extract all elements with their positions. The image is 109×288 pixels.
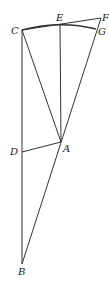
geometry-figure: C E F G A D B <box>0 0 109 288</box>
label-F: F <box>101 12 109 23</box>
label-D: D <box>9 146 18 157</box>
label-B: B <box>17 266 25 277</box>
segment-FB <box>22 18 101 264</box>
label-E: E <box>55 12 64 23</box>
label-A: A <box>62 143 70 154</box>
segment-CA <box>22 30 61 142</box>
segment-DA <box>22 142 61 152</box>
label-G: G <box>98 26 106 37</box>
arc-CG <box>22 25 96 30</box>
label-C: C <box>11 25 19 36</box>
segment-EA <box>60 24 61 142</box>
